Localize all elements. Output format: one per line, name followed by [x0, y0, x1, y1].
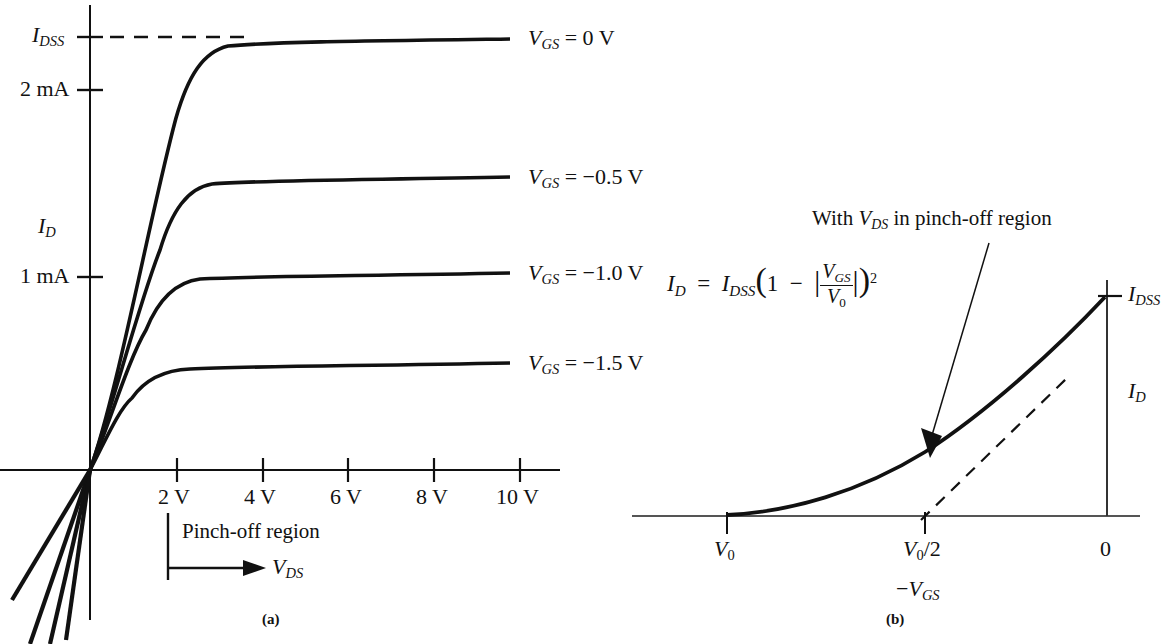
- panel-b-caption: (b): [886, 612, 904, 627]
- panel-b-plot: [0, 0, 1164, 644]
- panel-b-x-tick-label-v0-half: V0/2: [903, 538, 941, 563]
- panel-b-y-label-idss: IDSS: [1128, 283, 1160, 308]
- panel-b-annotation: With VDS in pinch-off region: [812, 208, 1052, 232]
- panel-b-y-axis-label-id: ID: [1128, 380, 1146, 405]
- panel-b-equation: ID = IDSS(1 − |VGSV0|)2: [667, 262, 877, 310]
- panel-b-x-axis-label: −VGS: [896, 578, 940, 603]
- figure-jfet-characteristics: IDSS 2 mA 1 mA ID 2 V 4 V 6 V 8 V 10 V P…: [0, 0, 1164, 644]
- panel-b-transfer-curve: [727, 297, 1105, 515]
- panel-b-x-tick-label-zero: 0: [1100, 538, 1111, 560]
- panel-b-x-tick-label-v0: V0: [714, 538, 735, 563]
